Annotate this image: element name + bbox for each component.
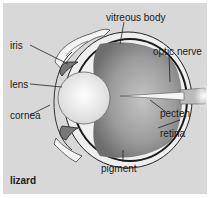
diagram-title: lizard: [10, 175, 36, 186]
lens: [58, 72, 110, 124]
label-cornea: cornea: [10, 110, 41, 121]
label-pecten: pecten: [160, 108, 190, 119]
label-optic-nerve: optic nerve: [153, 46, 202, 57]
label-vitreous-body: vitreous body: [106, 12, 165, 23]
label-retina: retina: [160, 128, 185, 139]
label-iris: iris: [10, 40, 23, 51]
label-lens: lens: [10, 79, 28, 90]
label-pigment: pigment: [101, 163, 137, 174]
